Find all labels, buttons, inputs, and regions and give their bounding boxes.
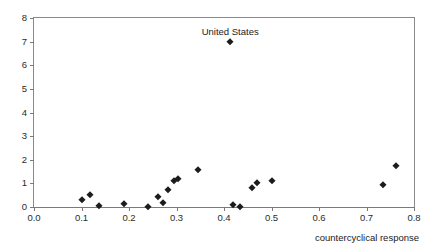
x-tick-label: 0.3 [170, 213, 183, 223]
scatter-chart-figure: 012345678 0.00.10.20.30.40.50.60.70.8 Un… [0, 0, 438, 251]
y-tick-label: 4 [22, 108, 27, 118]
y-tick-mark [30, 113, 34, 114]
y-tick-mark [30, 18, 34, 19]
x-tick-mark [414, 207, 415, 211]
data-point-marker [159, 199, 167, 207]
x-axis-title: countercyclical response [315, 233, 419, 243]
data-point-marker [86, 191, 94, 199]
y-tick-label: 3 [22, 131, 27, 141]
point-annotation-label: United States [202, 26, 259, 36]
data-point-marker [392, 162, 400, 170]
x-tick-label: 0.5 [265, 213, 278, 223]
data-point-marker [253, 179, 261, 187]
x-tick-mark [367, 207, 368, 211]
y-tick-label: 0 [22, 202, 27, 212]
x-tick-label: 0.1 [75, 213, 88, 223]
data-point-marker [78, 196, 86, 204]
x-tick-mark [129, 207, 130, 211]
x-tick-label: 0.7 [360, 213, 373, 223]
data-point-marker [229, 201, 237, 209]
data-point-marker [248, 184, 256, 192]
x-tick-label: 0.6 [312, 213, 325, 223]
y-tick-label: 5 [22, 84, 27, 94]
data-point-marker [194, 167, 202, 175]
x-tick-mark [177, 207, 178, 211]
y-tick-label: 2 [22, 155, 27, 165]
y-tick-label: 7 [22, 37, 27, 47]
x-tick-label: 0.8 [407, 213, 420, 223]
x-tick-mark [82, 207, 83, 211]
data-point-marker [236, 203, 244, 211]
x-tick-label: 0.2 [122, 213, 135, 223]
x-tick-label: 0.0 [27, 213, 40, 223]
x-tick-label: 0.4 [217, 213, 230, 223]
y-tick-mark [30, 183, 34, 184]
y-tick-label: 6 [22, 61, 27, 71]
y-tick-mark [30, 65, 34, 66]
plot-area: 012345678 0.00.10.20.30.40.50.60.70.8 Un… [33, 17, 415, 208]
data-point-marker [164, 186, 172, 194]
data-point-marker [268, 177, 276, 185]
y-tick-mark [30, 42, 34, 43]
data-point-marker [144, 203, 152, 211]
data-point-marker [226, 38, 234, 46]
x-tick-mark [224, 207, 225, 211]
y-tick-label: 1 [22, 179, 27, 189]
x-tick-mark [319, 207, 320, 211]
data-point-marker [379, 181, 387, 189]
y-tick-mark [30, 89, 34, 90]
y-tick-mark [30, 160, 34, 161]
data-point-marker [95, 202, 103, 210]
x-tick-mark [272, 207, 273, 211]
data-point-marker [120, 200, 128, 208]
y-tick-mark [30, 136, 34, 137]
y-tick-label: 8 [22, 13, 27, 23]
x-tick-mark [34, 207, 35, 211]
